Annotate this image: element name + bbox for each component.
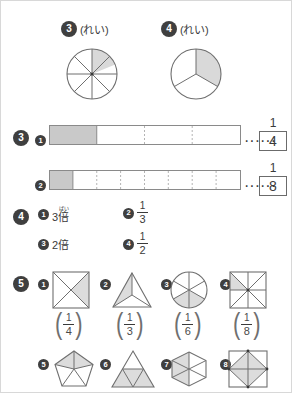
shape-4-fraction: 1 8	[241, 313, 252, 337]
section-3-bar-2	[49, 170, 241, 190]
section-3-row-1-badge: 1	[35, 135, 46, 146]
shape-1-square-diagonals	[52, 271, 90, 309]
paren-open: (	[174, 312, 181, 339]
section-3-row-1-badge-wrap: 1	[35, 129, 46, 147]
section-4-answer-2-fraction: 1 3	[137, 201, 148, 225]
section-4-answer-3-badge: 3	[38, 239, 49, 250]
bai-furigana: ばい	[58, 205, 69, 211]
section-4-answer-1-badge: 1	[38, 209, 49, 220]
shape-4-square-eighths	[229, 271, 267, 309]
paren-close: )	[253, 312, 260, 339]
example-4-badge: 4	[161, 21, 177, 37]
shape-5-pentagon-fifths	[53, 349, 95, 389]
shape-2-answer: ( 1 3 )	[116, 313, 144, 337]
paren-close: )	[194, 312, 201, 339]
bar-shaded-part	[50, 171, 73, 189]
section-3-bar-1	[49, 125, 241, 145]
shape-2-fraction: 1 3	[124, 313, 135, 337]
section-4-answer-1-value: 3倍ばい	[52, 205, 69, 224]
section-4-answer-1: 1 3倍ばい	[38, 205, 69, 224]
paren-close: )	[136, 312, 143, 339]
shape-1-fraction: 1 4	[63, 313, 74, 337]
denominator: 8	[244, 325, 250, 337]
section-3-badge-wrap: 3	[13, 127, 29, 146]
section-4-answer-4-badge: 4	[123, 239, 134, 250]
example-4-note: (れい)	[180, 21, 209, 37]
section-3-row-2-answer: 1 8	[259, 162, 287, 196]
vertex-dot-right	[266, 368, 269, 371]
dividers	[229, 351, 267, 387]
vertex-dot-top	[247, 350, 250, 353]
section-5-badge: 5	[13, 276, 29, 292]
bar-shaded-part	[50, 126, 97, 144]
example-3-badge: 3	[61, 21, 77, 37]
shape-1-badge-wrap: 1	[38, 273, 49, 291]
numerator: 1	[138, 232, 148, 243]
denominator: 3	[127, 325, 133, 337]
section-3-row-2-badge: 2	[35, 180, 46, 191]
shape-7-hexagon-sixths	[168, 349, 210, 389]
section-4-answer-2-badge: 2	[123, 208, 134, 219]
answer-denominator-box: 8	[259, 176, 287, 196]
shape-5-badge: 5	[38, 359, 49, 370]
denominator: 2	[139, 244, 145, 256]
shape-8-square-diamond	[227, 349, 269, 389]
answer-numerator: 1	[270, 117, 277, 131]
shape-2-badge-wrap: 2	[100, 273, 111, 291]
shape-5-badge-wrap: 5	[38, 353, 49, 371]
section-4-answer-4: 4 1 2	[123, 232, 148, 256]
numerator: 1	[125, 313, 135, 324]
shape-3-circle-sixths	[170, 271, 208, 309]
section-3-badge: 3	[13, 130, 29, 146]
example-3-circle-8	[59, 41, 125, 107]
shape-3-fraction: 1 6	[182, 313, 193, 337]
denominator: 6	[185, 325, 191, 337]
section-4-answer-3-value: 2倍	[52, 236, 69, 252]
paren-open: (	[116, 312, 123, 339]
example-4-circle-3	[163, 41, 229, 107]
shape-2-badge: 2	[100, 279, 111, 290]
shape-6-triangle-quarters	[111, 349, 155, 389]
shaded-part	[71, 272, 89, 308]
numerator: 1	[242, 313, 252, 324]
numerator: 1	[64, 313, 74, 324]
vertex-dot-bottom	[247, 386, 250, 389]
answer-denominator-box: 4	[259, 131, 287, 151]
shape-1-answer: ( 1 4 )	[55, 313, 83, 337]
shape-1-badge: 1	[38, 279, 49, 290]
example-4-header: 4 (れい)	[161, 21, 209, 37]
denominator: 3	[139, 213, 145, 225]
section-5-badge-wrap: 5	[13, 273, 29, 292]
shape-6-badge: 6	[100, 359, 111, 370]
section-4-answer-2: 2 1 3	[123, 201, 148, 225]
section-4-answer-4-fraction: 1 2	[137, 232, 148, 256]
section-4-badge: 4	[13, 209, 29, 225]
section-3-row-2-badge-wrap: 2	[35, 174, 46, 192]
shape-6-badge-wrap: 6	[100, 353, 111, 371]
shape-2-triangle-thirds	[111, 271, 153, 309]
center-dot	[90, 72, 93, 75]
section-3-row-1-answer: 1 4	[259, 117, 287, 151]
numerator: 1	[183, 313, 193, 324]
paren-open: (	[233, 312, 240, 339]
worksheet-page: 3 (れい) 4 (れい)	[0, 0, 292, 393]
paren-close: )	[75, 312, 82, 339]
section-4-badge-wrap: 4	[13, 206, 29, 225]
numerator: 1	[138, 201, 148, 212]
example-3-header: 3 (れい)	[61, 21, 109, 37]
vertex-dot-left	[228, 368, 231, 371]
bai-kanji: 倍	[58, 211, 69, 223]
example-3-note: (れい)	[80, 21, 109, 37]
denominator: 4	[66, 325, 72, 337]
shape-3-answer: ( 1 6 )	[174, 313, 202, 337]
answer-numerator: 1	[270, 162, 277, 176]
shape-4-answer: ( 1 8 )	[233, 313, 261, 337]
section-4-answer-3: 3 2倍	[38, 236, 69, 252]
paren-open: (	[55, 312, 62, 339]
center-dot	[247, 289, 250, 292]
